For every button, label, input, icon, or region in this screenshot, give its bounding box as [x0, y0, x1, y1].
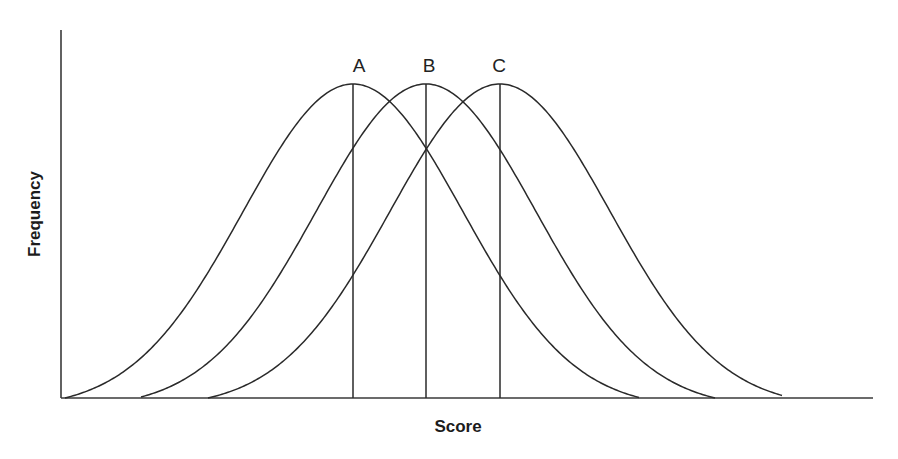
curve-label-b: B: [423, 55, 436, 76]
normal-distributions-chart: A B C Score Frequency: [0, 0, 898, 459]
x-axis-title: Score: [434, 417, 481, 436]
y-axis-title: Frequency: [25, 170, 44, 257]
curves-group: [65, 84, 782, 398]
curve-label-a: A: [353, 55, 366, 76]
curve-c: [208, 84, 782, 398]
curve-label-c: C: [492, 55, 506, 76]
